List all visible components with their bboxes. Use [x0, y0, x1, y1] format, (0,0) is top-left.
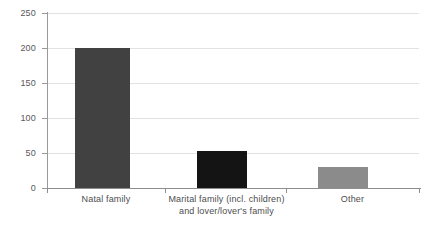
x-tick-start	[47, 188, 48, 193]
x-category-label-line: and lover/lover's family	[148, 206, 305, 218]
gridline-250	[47, 13, 419, 14]
x-axis-line	[42, 188, 421, 189]
x-category-label-line: Other	[286, 194, 419, 206]
y-tick-250	[42, 13, 47, 14]
y-tick-label-150: 150	[0, 79, 36, 88]
y-tick-label-250: 250	[0, 9, 36, 18]
plot-area	[47, 13, 419, 188]
bar-natal-family	[75, 48, 130, 188]
y-tick-label-200: 200	[0, 44, 36, 53]
x-tick-1	[165, 188, 166, 193]
bar-marital-family	[197, 151, 247, 188]
y-tick-100	[42, 118, 47, 119]
y-tick-50	[42, 153, 47, 154]
x-tick-end	[419, 188, 420, 193]
bar-chart: 250 200 150 100 50 0 Natal family Marita…	[0, 0, 431, 229]
y-tick-200	[42, 48, 47, 49]
x-category-label-marital-family: Marital family (incl. children) and love…	[148, 194, 305, 217]
bar-other	[318, 167, 368, 188]
y-axis-line	[47, 12, 48, 189]
x-category-label-other: Other	[286, 194, 419, 206]
x-tick-2	[286, 188, 287, 193]
y-tick-label-50: 50	[0, 149, 36, 158]
x-category-label-line: Marital family (incl. children)	[148, 194, 305, 206]
y-tick-150	[42, 83, 47, 84]
y-tick-label-100: 100	[0, 114, 36, 123]
y-tick-label-0: 0	[0, 184, 36, 193]
